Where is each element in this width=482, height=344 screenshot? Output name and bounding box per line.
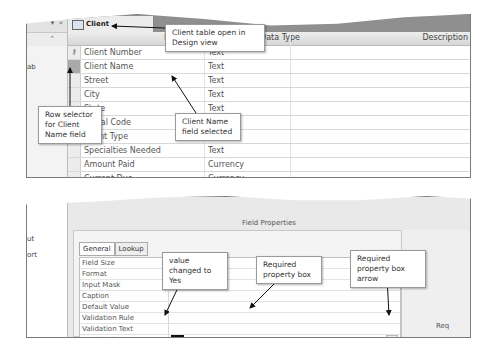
callout-required-box: Required property box — [256, 256, 322, 284]
tab-client[interactable]: Client — [68, 16, 154, 32]
callout-value-changed: value changed to Yes — [162, 252, 228, 290]
navigation-pane: ▾ « ⌃ ab — [27, 15, 68, 177]
design-view: Client Field Name Data Type Description … — [68, 15, 470, 177]
table-row[interactable]: StateText — [68, 102, 470, 116]
property-row[interactable]: Caption — [80, 291, 400, 302]
data-type-cell[interactable]: Text — [208, 74, 224, 87]
field-properties-title: Field Properties — [68, 219, 470, 227]
property-name: Field Size — [82, 258, 115, 268]
row-selector[interactable] — [68, 60, 81, 73]
grid-header: Field Name Data Type Description — [68, 32, 470, 46]
table-row[interactable]: Current DueCurrency — [68, 172, 470, 178]
property-row[interactable]: Validation Rule — [80, 313, 400, 324]
property-name: Required — [82, 335, 113, 338]
nav-partial-label: ut — [27, 235, 34, 243]
dropdown-icon[interactable]: ▾ — [51, 19, 55, 27]
property-name: Format — [82, 269, 107, 279]
header-data-type: Data Type — [260, 33, 300, 42]
row-selector[interactable] — [68, 88, 81, 101]
properties-tabs: GeneralLookup — [79, 242, 148, 256]
row-selector[interactable] — [68, 158, 81, 171]
data-type-cell[interactable]: Text — [208, 144, 224, 157]
property-name: Validation Text — [82, 324, 133, 334]
document-tabstrip: Client — [68, 15, 470, 32]
property-name: Input Mask — [82, 280, 120, 290]
required-dropdown-arrow-icon[interactable]: ⌄ — [386, 335, 398, 338]
collapse-up-icon[interactable]: ⌃ — [49, 35, 55, 43]
nav-group-header[interactable]: ⌃ — [27, 33, 67, 46]
primary-key-icon: ⚷ — [71, 48, 76, 56]
callout-field-selected: Client Name field selected — [175, 113, 241, 141]
nav-header[interactable]: ▾ « — [27, 15, 67, 33]
data-type-cell[interactable]: Text — [208, 88, 224, 101]
table-row[interactable]: Client NameText — [68, 60, 470, 74]
row-selector[interactable] — [68, 172, 81, 178]
row-selector[interactable] — [68, 74, 81, 87]
callout-required-arrow: Required property box arrow — [350, 250, 426, 288]
property-name: Validation Rule — [82, 313, 134, 323]
data-type-cell[interactable]: Currency — [208, 158, 244, 171]
table-row[interactable]: Specialties NeededText — [68, 144, 470, 158]
collapse-icon[interactable]: « — [59, 19, 63, 27]
table-row[interactable]: ⚷Client NumberText — [68, 46, 470, 60]
table-row[interactable]: Client TypeText — [68, 130, 470, 144]
help-text: Req — [436, 322, 449, 330]
header-description: Description — [422, 33, 468, 42]
field-name-cell[interactable]: Client Name — [84, 60, 133, 73]
field-name-cell[interactable]: Client Number — [84, 46, 142, 59]
field-name-cell[interactable]: Current Due — [84, 172, 133, 178]
table-design-icon — [72, 20, 84, 30]
property-row[interactable]: Default Value — [80, 302, 400, 313]
field-name-cell[interactable]: Amount Paid — [84, 158, 135, 171]
row-selector[interactable]: ⚷ — [68, 46, 81, 59]
navigation-pane: ut ort — [27, 197, 68, 337]
table-row[interactable]: CityText — [68, 88, 470, 102]
field-name-cell[interactable]: City — [84, 88, 100, 101]
tab-lookup[interactable]: Lookup — [115, 242, 148, 256]
tab-general[interactable]: General — [79, 242, 115, 256]
required-property-box[interactable]: Yes — [171, 335, 184, 338]
data-type-cell[interactable]: Text — [208, 60, 224, 73]
nav-partial-label: ort — [27, 251, 37, 259]
field-name-cell[interactable]: Street — [84, 74, 108, 87]
callout-table-open: Client table open in Design view — [165, 24, 265, 52]
property-name: Caption — [82, 291, 109, 301]
property-row[interactable]: Validation Text — [80, 324, 400, 335]
property-name: Default Value — [82, 302, 129, 312]
data-type-cell[interactable]: Currency — [208, 172, 244, 178]
field-name-cell[interactable]: Specialties Needed — [84, 144, 161, 157]
table-row[interactable]: Amount PaidCurrency — [68, 158, 470, 172]
callout-row-selector: Row selector for Client Name field — [38, 106, 102, 144]
nav-partial-label: ab — [27, 63, 36, 71]
tab-label: Client — [86, 20, 109, 28]
required-property-row[interactable]: RequiredYes⌄ — [80, 335, 400, 338]
row-selector[interactable] — [68, 144, 81, 157]
table-row[interactable]: StreetText — [68, 74, 470, 88]
table-row[interactable]: Postal CodeText — [68, 116, 470, 130]
